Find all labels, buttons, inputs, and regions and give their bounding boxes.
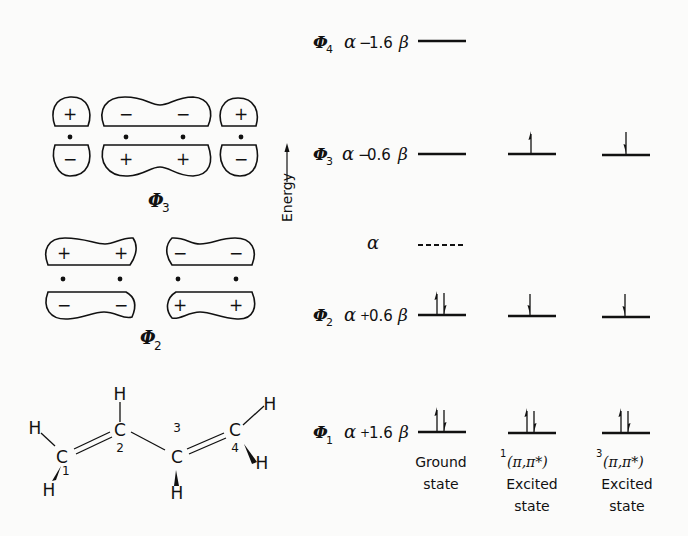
state-label-singlet: 1 (π,π*) Excited state <box>500 448 558 514</box>
energy-coefficient: 0.6 <box>367 146 391 164</box>
hydrogen: H <box>264 394 277 414</box>
sign: + <box>114 243 128 263</box>
state-label-line3: state <box>609 498 644 514</box>
nucleus-dot <box>239 135 244 140</box>
butadiene-mo-diagram: + − − + − + + − Φ 3 + + − − − − + + Φ 2 <box>0 0 688 536</box>
electron-down-icon <box>623 294 626 317</box>
level-phi2: Φ 2 α + 0.6 β <box>313 291 650 329</box>
sign: − <box>57 295 71 315</box>
nucleus-dot <box>118 277 123 282</box>
nucleus-dot <box>68 135 73 140</box>
beta-symbol: β <box>397 144 408 164</box>
state-label-line1: (π,π*) <box>507 454 548 470</box>
state-label-line2: Excited <box>601 476 652 492</box>
state-label-triplet: 3 (π,π*) Excited state <box>596 448 653 514</box>
sign: − <box>234 149 248 169</box>
nucleus-dot <box>234 277 239 282</box>
beta-symbol: β <box>398 32 409 52</box>
nucleus-dot <box>176 277 181 282</box>
electron-down-icon <box>528 294 531 316</box>
state-label-line2: state <box>423 476 458 492</box>
electron-pair-icon <box>525 408 537 433</box>
sign: + <box>173 295 187 315</box>
sign: + <box>57 243 71 263</box>
hydrogen: H <box>256 453 269 473</box>
orbital-picture-label-index: 2 <box>154 339 162 353</box>
atom-number-3: 3 <box>173 421 181 435</box>
level-alpha: α <box>367 232 466 253</box>
hydrogen: H <box>29 418 42 438</box>
orbital-index: 3 <box>326 155 333 168</box>
sign: − <box>173 243 187 263</box>
electron-up-icon <box>529 131 532 154</box>
electron-pair-icon <box>435 291 447 315</box>
state-label-ground: Ground state <box>415 454 467 492</box>
orbital-index: 4 <box>326 43 333 56</box>
alpha-symbol: α <box>344 304 356 325</box>
level-phi4: Φ 4 α − 1.6 β <box>313 31 466 56</box>
atom-number-1: 1 <box>62 464 70 478</box>
hydrogen: H <box>171 483 184 503</box>
alpha-reference-label: α <box>367 232 379 253</box>
spin-multiplicity: 1 <box>500 448 506 459</box>
sign: + <box>234 104 248 124</box>
orbital-index: 2 <box>326 316 333 329</box>
state-label-line1: Ground <box>415 454 467 470</box>
energy-axis-label: Energy <box>279 173 295 222</box>
energy-coefficient: 0.6 <box>369 307 393 325</box>
level-phi1: Φ 1 α + 1.6 β <box>313 407 650 447</box>
energy-coefficient: 1.6 <box>369 34 393 52</box>
atom-number-2: 2 <box>116 441 124 455</box>
sign: + <box>229 295 243 315</box>
orbital-picture-phi2: + + − − − − + + Φ 2 <box>46 238 255 353</box>
electron-pair-icon <box>619 408 631 433</box>
atom-c3: C <box>171 447 183 467</box>
nucleus-dot <box>61 277 66 282</box>
energy-axis: Energy <box>279 143 295 222</box>
sign: − <box>63 149 77 169</box>
sign: + <box>63 104 77 124</box>
nucleus-dot <box>124 135 129 140</box>
beta-symbol: β <box>397 305 408 325</box>
electron-down-icon <box>624 132 627 155</box>
beta-symbol: β <box>398 422 409 442</box>
atom-number-4: 4 <box>231 441 239 455</box>
state-label-line2: Excited <box>506 476 557 492</box>
electron-pair-icon <box>435 407 447 432</box>
energy-coefficient: 1.6 <box>369 424 393 442</box>
atom-c2: C <box>114 420 126 440</box>
sign: − <box>229 243 243 263</box>
orbital-picture-phi3: + − − + − + + − Φ 3 <box>53 97 257 215</box>
spin-multiplicity: 3 <box>596 448 602 459</box>
atom-c4: C <box>229 420 241 440</box>
hydrogen: H <box>43 480 56 500</box>
state-label-line3: state <box>514 498 549 514</box>
orbital-index: 1 <box>326 434 333 447</box>
alpha-symbol: α <box>344 421 356 442</box>
nucleus-dot <box>181 135 186 140</box>
hydrogen: H <box>114 384 127 404</box>
state-label-line1: (π,π*) <box>603 454 644 470</box>
alpha-symbol: α <box>344 31 356 52</box>
sign: + <box>119 149 133 169</box>
orbital-picture-label-index: 3 <box>162 201 170 215</box>
level-phi3: Φ 3 α − 0.6 β <box>313 131 650 168</box>
sign: − <box>176 104 190 124</box>
alpha-symbol: α <box>342 143 354 164</box>
sign: − <box>114 295 128 315</box>
sign: − <box>119 104 133 124</box>
arrow-up-icon <box>285 143 290 152</box>
sign: + <box>176 149 190 169</box>
